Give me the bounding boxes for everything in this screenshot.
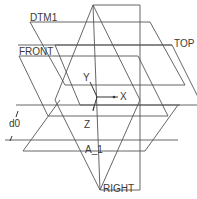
dimension-label-d0[interactable]: d0 [9,118,21,129]
z-axis-label: Z [84,119,90,130]
datum-axis-a1[interactable]: A_1 [85,144,103,155]
datum-plane-front[interactable]: FRONT [19,46,168,116]
y-axis-label: Y [83,72,90,83]
datum-plane-right[interactable]: RIGHT [55,5,140,194]
z-axis-arrow [93,107,94,111]
datum-label-front[interactable]: FRONT [19,46,53,57]
x-axis-marker [113,96,116,99]
coordinate-system[interactable]: X Y Z [83,72,127,130]
dimension-arrow-top [16,111,18,117]
datum-label-top[interactable]: TOP [174,38,195,49]
datum-label-right[interactable]: RIGHT [103,183,134,194]
model-viewport[interactable]: DTM1 TOP FRONT RIGHT [0,0,197,199]
datum-label-dtm1[interactable]: DTM1 [30,12,58,23]
axis-label-a1[interactable]: A_1 [85,144,103,155]
dimension-d0[interactable]: d0 [9,111,21,141]
plane-edge [145,105,178,151]
plane-edge [23,100,60,151]
x-axis-label: X [120,91,127,102]
